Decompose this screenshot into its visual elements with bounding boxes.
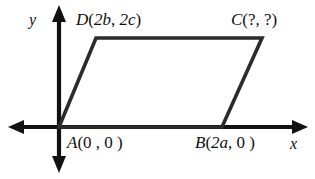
vertex-label-a-coord-x: 0: [83, 133, 92, 152]
y-axis-arrow-down: [52, 156, 66, 173]
vertex-label-a: A(0 , 0 ): [67, 134, 123, 151]
vertex-label-a-comma: ,: [96, 133, 100, 152]
vertex-label-a-coord-y: 0: [104, 133, 113, 152]
vertex-label-d-coord-x: 2b: [94, 10, 111, 29]
vertex-label-c-name: C: [231, 10, 242, 29]
x-axis-arrow-left: [8, 120, 24, 134]
vertex-label-a-name: A: [67, 133, 77, 152]
vertex-label-d-paren-close: ): [136, 10, 142, 29]
vertex-label-c: C(?, ?): [231, 11, 277, 28]
vertex-label-c-comma: ,: [256, 10, 260, 29]
coordinate-geometry-figure: D(2b, 2c) C(?, ?) A(0 , 0 ) B(2a, 0 ) y …: [0, 0, 315, 179]
vertex-label-b-coord-y: 0: [237, 133, 246, 152]
vertex-label-b-paren-close: ): [249, 133, 255, 152]
vertex-label-c-coord-x: ?: [248, 10, 256, 29]
y-axis-arrow-up: [52, 5, 66, 22]
vertex-label-b: B(2a, 0 ): [195, 134, 255, 151]
parallelogram-abcd: [59, 38, 262, 127]
vertex-label-d-name: D: [76, 10, 88, 29]
vertex-label-b-comma: ,: [228, 133, 232, 152]
y-axis-label: y: [29, 12, 36, 28]
vertex-label-d-coord-y: 2c: [119, 10, 135, 29]
vertex-label-d-comma: ,: [111, 10, 115, 29]
vertex-label-d: D(2b, 2c): [76, 11, 141, 28]
x-axis-arrow-right: [292, 120, 308, 134]
vertex-label-b-name: B: [195, 133, 205, 152]
vertex-label-b-coord-x: 2a: [211, 133, 228, 152]
x-axis-label: x: [290, 136, 297, 152]
vertex-label-a-paren-close: ): [117, 133, 123, 152]
vertex-label-c-coord-y: ?: [264, 10, 272, 29]
vertex-label-c-paren-close: ): [272, 10, 278, 29]
